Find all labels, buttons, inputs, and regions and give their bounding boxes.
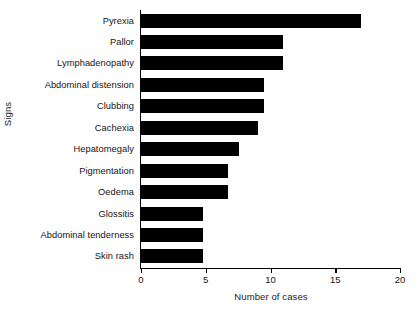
- category-label: Cachexia: [16, 123, 134, 133]
- plot-area: [141, 10, 400, 268]
- bar: [141, 207, 203, 221]
- x-axis-tick: [271, 268, 272, 273]
- bar: [141, 99, 264, 113]
- category-label: Clubbing: [16, 101, 134, 111]
- x-axis-tick: [335, 268, 336, 273]
- bar: [141, 78, 264, 92]
- bar: [141, 56, 283, 70]
- bar: [141, 249, 203, 263]
- category-label-list: Skin rashAbdominal tendernessGlossitisOe…: [16, 10, 134, 268]
- bar: [141, 185, 228, 199]
- category-label: Skin rash: [16, 251, 134, 261]
- x-axis-tick: [141, 268, 142, 273]
- category-label: Oedema: [16, 187, 134, 197]
- x-axis-tick-label: 15: [320, 274, 350, 286]
- category-label: Glossitis: [16, 209, 134, 219]
- category-label: Abdominal distension: [16, 80, 134, 90]
- x-axis-title: Number of cases: [141, 291, 401, 303]
- category-label: Abdominal tenderness: [16, 230, 134, 240]
- bar: [141, 164, 228, 178]
- category-label: Lymphadenopathy: [16, 58, 134, 68]
- bar: [141, 14, 361, 28]
- x-axis-tick: [400, 268, 401, 273]
- y-axis-title: Signs: [0, 84, 16, 144]
- bar: [141, 121, 258, 135]
- bar-chart: Signs Skin rashAbdominal tendernessGloss…: [0, 0, 418, 313]
- category-label: Pyrexia: [16, 16, 134, 26]
- x-axis-tick-label: 10: [256, 274, 286, 286]
- x-axis-tick: [206, 268, 207, 273]
- bar: [141, 228, 203, 242]
- x-axis-tick-label: 5: [191, 274, 221, 286]
- category-label: Pigmentation: [16, 166, 134, 176]
- bar: [141, 142, 239, 156]
- x-axis-tick-label: 20: [385, 274, 415, 286]
- category-label: Pallor: [16, 37, 134, 47]
- bar: [141, 35, 283, 49]
- y-axis-title-label: Signs: [0, 84, 16, 144]
- x-axis-tick-label: 0: [126, 274, 156, 286]
- category-label: Hepatomegaly: [16, 144, 134, 154]
